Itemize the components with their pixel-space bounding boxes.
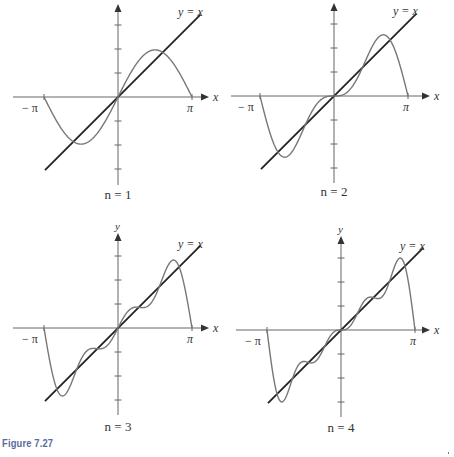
panel-n1: x− ππy = xn = 1 bbox=[13, 4, 219, 202]
x-axis-arrow-icon bbox=[422, 327, 430, 334]
x-axis-arrow-icon bbox=[422, 93, 430, 100]
figure-canvas: x− ππy = xn = 1x− ππy = xn = 2xy− ππy = … bbox=[0, 0, 454, 457]
identity-line bbox=[45, 246, 200, 401]
identity-line-label: y = x bbox=[392, 4, 418, 18]
panel-label: n = 1 bbox=[105, 187, 132, 202]
y-axis-label: y bbox=[337, 223, 343, 235]
identity-line bbox=[261, 14, 416, 169]
x-axis-arrow-icon bbox=[201, 325, 209, 332]
stray-mark bbox=[448, 452, 449, 454]
x-axis-arrow-icon bbox=[201, 94, 209, 101]
pi-label: π bbox=[187, 101, 194, 115]
panel-n3: xy− ππy = xn = 3 bbox=[13, 220, 219, 434]
x-axis-label: x bbox=[433, 89, 440, 103]
y-axis-arrow-icon bbox=[331, 3, 338, 11]
identity-line bbox=[45, 15, 200, 170]
identity-line bbox=[268, 248, 423, 403]
neg-pi-label: − π bbox=[22, 332, 38, 346]
identity-line-label: y = x bbox=[177, 5, 203, 19]
panel-label: n = 2 bbox=[321, 184, 348, 199]
pi-label: π bbox=[187, 332, 194, 346]
identity-line-label: y = x bbox=[177, 237, 203, 251]
y-axis-arrow-icon bbox=[338, 236, 345, 244]
panel-n2: x− ππy = xn = 2 bbox=[231, 3, 440, 199]
identity-line-label: y = x bbox=[399, 239, 425, 253]
x-axis-label: x bbox=[212, 321, 219, 335]
neg-pi-label: − π bbox=[22, 101, 38, 115]
pi-label: π bbox=[403, 100, 410, 114]
panel-n4: xy− ππy = xn = 4 bbox=[236, 223, 440, 435]
panel-label: n = 3 bbox=[105, 419, 132, 434]
neg-pi-label: − π bbox=[238, 100, 254, 114]
y-axis-label: y bbox=[114, 220, 120, 232]
pi-label: π bbox=[410, 334, 417, 348]
neg-pi-label: − π bbox=[245, 334, 261, 348]
y-axis-arrow-icon bbox=[115, 233, 122, 241]
y-axis-arrow-icon bbox=[115, 4, 122, 12]
x-axis-label: x bbox=[212, 90, 219, 104]
x-axis-label: x bbox=[433, 323, 440, 337]
figure-caption: Figure 7.27 bbox=[2, 437, 53, 449]
panel-label: n = 4 bbox=[328, 420, 355, 435]
